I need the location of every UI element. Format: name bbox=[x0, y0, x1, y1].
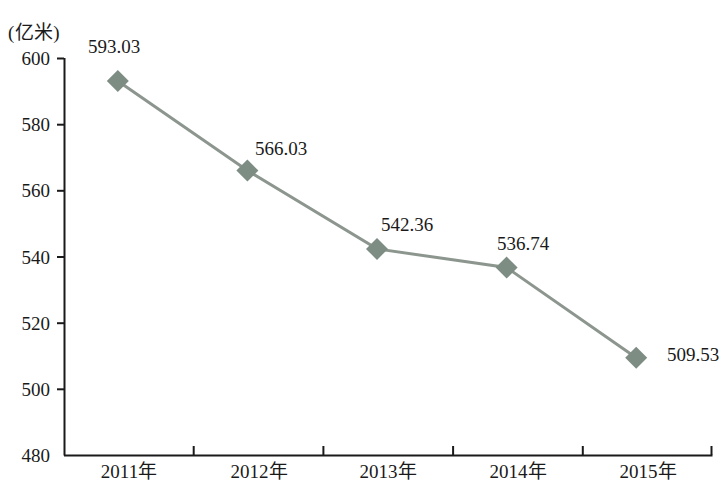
y-tick-label-600: 600 bbox=[2, 49, 50, 68]
data-point-marker bbox=[236, 160, 258, 182]
data-point-label-2011: 593.03 bbox=[88, 37, 140, 56]
data-point-marker bbox=[625, 347, 647, 369]
y-axis-unit-label: (亿米) bbox=[8, 17, 60, 44]
y-tick-label-560: 560 bbox=[2, 181, 50, 200]
series-line bbox=[118, 81, 636, 358]
y-tick-label-540: 540 bbox=[2, 248, 50, 267]
y-axis-ticks bbox=[57, 59, 64, 390]
x-tick-label-2011: 2011年 bbox=[69, 462, 189, 481]
x-tick-label-2014: 2014年 bbox=[458, 462, 578, 481]
data-point-marker bbox=[366, 238, 388, 260]
axes bbox=[64, 58, 713, 456]
x-axis-ticks bbox=[194, 446, 712, 455]
data-point-label-2015: 509.53 bbox=[667, 345, 719, 364]
data-point-label-2013: 542.36 bbox=[381, 215, 433, 234]
y-tick-label-480: 480 bbox=[2, 446, 50, 465]
data-point-marker bbox=[496, 257, 518, 279]
series-markers bbox=[107, 70, 647, 369]
x-tick-label-2013: 2013年 bbox=[328, 462, 448, 481]
data-point-marker bbox=[107, 70, 129, 92]
data-point-label-2014: 536.74 bbox=[497, 234, 549, 253]
x-tick-label-2015: 2015年 bbox=[588, 462, 708, 481]
y-tick-label-500: 500 bbox=[2, 380, 50, 399]
x-tick-label-2012: 2012年 bbox=[199, 462, 319, 481]
data-point-label-2012: 566.03 bbox=[255, 139, 307, 158]
y-tick-label-580: 580 bbox=[2, 115, 50, 134]
y-tick-label-520: 520 bbox=[2, 314, 50, 333]
